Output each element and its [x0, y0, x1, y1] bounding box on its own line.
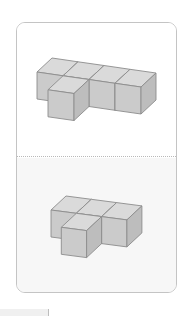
- scroll-bar-fragment: [0, 309, 49, 316]
- option-panel-bottom[interactable]: [17, 158, 176, 292]
- dotted-divider: [17, 156, 176, 157]
- answer-card: [16, 22, 177, 293]
- option-panel-top[interactable]: [17, 23, 176, 156]
